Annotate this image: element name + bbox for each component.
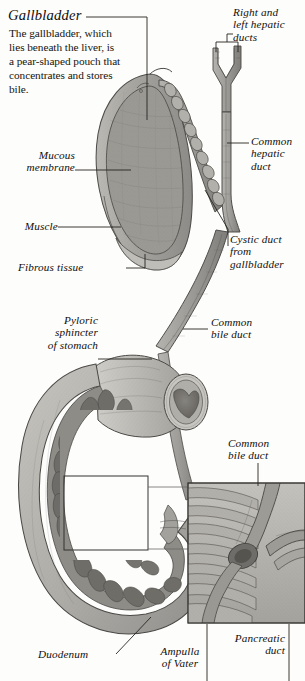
inset-panel [188, 483, 305, 623]
figure-title: Gallbladder [8, 7, 82, 24]
label-cystic-duct: Cystic duct from gallbladder [230, 233, 305, 270]
label-muscle: Muscle [5, 220, 58, 232]
label-hepatic-ducts: Right and left hepatic ducts [233, 6, 303, 43]
label-mucous-membrane: Mucous membrane [5, 149, 75, 174]
label-common-hepatic-duct: Common hepatic duct [251, 135, 305, 172]
label-common-bile-duct-inset: Common bile duct [228, 437, 296, 462]
label-ampulla-of-vater: Ampulla of Vater [155, 645, 205, 670]
label-common-bile-duct: Common bile duct [211, 316, 279, 341]
figure-description: The gallbladder, which lies beneath the … [9, 26, 121, 96]
label-fibrous-tissue: Fibrous tissue [18, 261, 128, 273]
label-duodenum: Duodenum [38, 648, 116, 660]
label-pyloric-sphincter: Pyloric sphincter of stomach [5, 314, 98, 351]
label-pancreatic-duct: Pancreatic duct [219, 632, 285, 657]
